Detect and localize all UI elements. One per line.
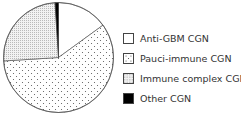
legend-label: Pauci-immune CGN — [140, 53, 232, 64]
pie-slice-immune-complex-cgn — [3, 3, 58, 61]
legend-label: Anti-GBM CGN — [140, 33, 209, 44]
pie-chart — [0, 0, 118, 116]
swatch-black-icon — [123, 93, 134, 104]
pie-slices — [3, 3, 113, 113]
legend-label: Other CGN — [140, 93, 191, 104]
legend-item-other: Other CGN — [123, 88, 241, 108]
swatch-white-icon — [123, 33, 134, 44]
legend-item-pauci-immune: Pauci-immune CGN — [123, 48, 241, 68]
swatch-sparse-dots-icon — [123, 53, 134, 64]
legend-item-immune-complex: Immune complex CGN — [123, 68, 241, 88]
legend-item-anti-gbm: Anti-GBM CGN — [123, 28, 241, 48]
legend-label: Immune complex CGN — [140, 73, 241, 84]
swatch-dense-dots-icon — [123, 73, 134, 84]
legend: Anti-GBM CGN Pauci-immune CGN Immune com… — [123, 28, 241, 108]
